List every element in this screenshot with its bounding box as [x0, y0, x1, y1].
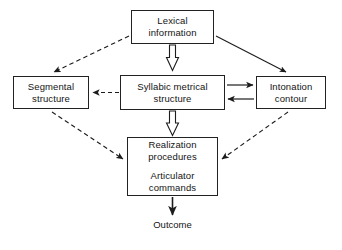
edge-intonation-to-realization — [222, 112, 288, 159]
node-lexical-information: Lexical information — [131, 10, 214, 44]
edge-lexical-to-segmental — [54, 36, 129, 72]
node-segmental-structure: Segmental structure — [13, 76, 89, 109]
node-realization-line-1: Realization — [148, 139, 196, 151]
node-syllabic-line-2: structure — [154, 93, 192, 105]
node-realization-line-2: procedures — [148, 151, 197, 163]
edge-syllabic-to-realization — [167, 111, 179, 136]
edge-lexical-to-intonation — [216, 36, 286, 72]
node-realization-line-3: Articulator — [151, 170, 195, 182]
node-intonation-line-2: contour — [275, 93, 307, 105]
node-lexical-line-2: information — [148, 27, 196, 39]
flow-diagram: Lexical information Segmental structure … — [0, 0, 342, 250]
edge-segmental-to-realization — [52, 112, 123, 159]
node-segmental-line-1: Segmental — [28, 81, 74, 93]
node-intonation-contour: Intonation contour — [256, 76, 326, 109]
edge-lexical-to-syllabic — [167, 45, 179, 71]
node-syllabic-metrical-structure: Syllabic metrical structure — [120, 75, 225, 110]
node-realization-line-4: commands — [149, 182, 196, 194]
node-intonation-line-1: Intonation — [270, 81, 313, 93]
node-segmental-line-2: structure — [32, 93, 70, 105]
node-syllabic-line-1: Syllabic metrical — [137, 81, 207, 93]
node-lexical-line-1: Lexical — [157, 15, 187, 27]
node-realization-articulator: Realization procedures Articulator comma… — [127, 137, 218, 196]
label-outcome: Outcome — [131, 219, 214, 231]
